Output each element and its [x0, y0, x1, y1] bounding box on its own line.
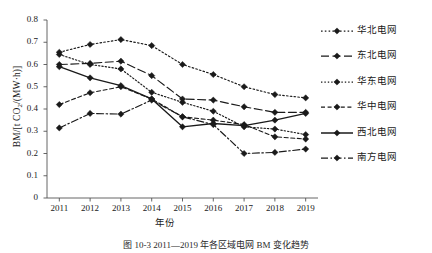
legend-item-0[interactable]: 华北电网: [320, 16, 432, 42]
data-point-marker: [87, 90, 93, 96]
y-tick-label: 0.8: [6, 15, 38, 24]
data-point-marker: [149, 42, 155, 48]
y-tick-label: 0.2: [6, 149, 38, 158]
y-tick-label: 0.1: [6, 171, 38, 180]
data-point-marker: [179, 114, 185, 120]
data-point-marker: [210, 108, 216, 114]
data-point-marker: [56, 101, 62, 107]
data-point-marker: [87, 41, 93, 47]
data-point-marker: [118, 36, 124, 42]
y-tick-label: 0.7: [6, 37, 38, 46]
legend-key-icon: [320, 23, 354, 35]
legend-item-5[interactable]: 南方电网: [320, 144, 432, 170]
data-point-marker: [272, 91, 278, 97]
legend-item-1[interactable]: 东北电网: [320, 42, 432, 68]
legend-key-icon: [320, 74, 354, 86]
x-tick-label: 2019: [286, 204, 326, 213]
data-point-marker: [118, 111, 124, 117]
data-point-marker: [118, 58, 124, 64]
figure-container: BM/[t CO2/(MW·h)] 00.10.20.30.40.50.60.7…: [0, 0, 432, 253]
axis-lines: [47, 20, 318, 198]
data-point-marker: [272, 117, 278, 123]
data-point-marker: [56, 125, 62, 131]
figure-caption: 图 10-3 2011—2019 年各区域电网 BM 变化趋势: [0, 238, 432, 253]
legend-label: 西北电网: [357, 124, 397, 138]
legend-key-icon: [320, 125, 354, 137]
y-tick-label: 0.4: [6, 104, 38, 113]
legend-key-icon: [320, 48, 354, 60]
legend-item-2[interactable]: 华东电网: [320, 67, 432, 93]
data-point-marker: [241, 84, 247, 90]
data-point-marker: [303, 136, 309, 142]
series-line-0: [59, 40, 305, 98]
x-axis-label: 年份: [0, 215, 330, 229]
series-line-3: [59, 87, 305, 139]
data-point-marker: [272, 149, 278, 155]
legend-item-4[interactable]: 西北电网: [320, 118, 432, 144]
data-point-marker: [87, 75, 93, 81]
y-tick-label: 0.3: [6, 126, 38, 135]
y-tick-label: 0: [6, 193, 38, 202]
legend-key-icon: [320, 99, 354, 111]
data-point-marker: [210, 97, 216, 103]
legend-label: 南方电网: [357, 149, 397, 163]
legend: 华北电网东北电网华东电网华中电网西北电网南方电网: [320, 16, 432, 169]
data-point-marker: [303, 95, 309, 101]
legend-label: 华中电网: [357, 98, 397, 112]
data-point-marker: [272, 109, 278, 115]
data-point-marker: [303, 146, 309, 152]
data-point-marker: [118, 66, 124, 72]
data-point-marker: [272, 126, 278, 132]
legend-label: 华北电网: [357, 22, 397, 36]
data-point-marker: [241, 104, 247, 110]
legend-label: 华东电网: [357, 73, 397, 87]
data-point-marker: [179, 61, 185, 67]
data-point-marker: [87, 110, 93, 116]
legend-item-3[interactable]: 华中电网: [320, 93, 432, 119]
y-tick-label: 0.6: [6, 60, 38, 69]
data-point-marker: [272, 134, 278, 140]
y-tick-label: 0.5: [6, 82, 38, 91]
data-point-marker: [210, 71, 216, 77]
legend-label: 东北电网: [357, 47, 397, 61]
legend-key-icon: [320, 150, 354, 162]
